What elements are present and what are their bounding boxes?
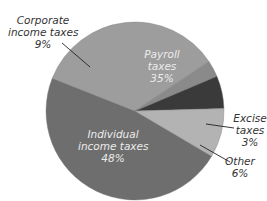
label-other: Other 6% [222,155,258,179]
label-excise-line2: taxes [232,124,267,136]
label-corporate-line2: income taxes [8,26,78,38]
label-corporate: Corporate income taxes 9% [8,14,78,50]
label-other-line1: Other [222,155,258,167]
label-excise-line1: Excise [232,112,267,124]
label-payroll-pct: 35% [138,72,186,84]
label-individual-line2: income taxes [78,140,148,152]
label-excise-pct: 3% [232,136,267,148]
label-corporate-pct: 9% [8,38,78,50]
label-individual: Individual income taxes 48% [78,128,148,164]
label-individual-line1: Individual [78,128,148,140]
label-payroll-line2: taxes [138,60,186,72]
label-payroll-line1: Payroll [138,48,186,60]
label-other-pct: 6% [222,167,258,179]
label-corporate-line1: Corporate [8,14,78,26]
label-individual-pct: 48% [78,152,148,164]
label-payroll: Payroll taxes 35% [138,48,186,84]
label-excise: Excise taxes 3% [232,112,267,148]
